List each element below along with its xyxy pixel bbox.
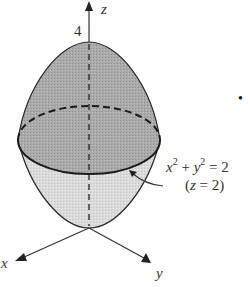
eq-x: x	[166, 159, 173, 175]
z-axis-label: z	[101, 2, 107, 17]
diagram-svg	[0, 0, 250, 287]
x-axis	[22, 228, 89, 258]
intersection-equation: x2 + y2 = 2	[166, 158, 229, 175]
y-axis	[89, 228, 144, 258]
y-axis-arrowhead	[141, 253, 151, 263]
z-axis-arrowhead	[85, 1, 93, 11]
z-tick-label: 4	[74, 24, 82, 39]
eq-y-exp: 2	[200, 156, 205, 167]
intersection-condition: (z = 2)	[185, 178, 224, 193]
stray-dot-marker: •	[238, 92, 243, 106]
paraboloid-diagram: z 4 x y x2 + y2 = 2 (z = 2) •	[0, 0, 250, 287]
cond-rest: = 2)	[196, 177, 224, 193]
x-axis-arrowhead	[15, 253, 27, 261]
eq-rhs: = 2	[205, 159, 228, 175]
x-axis-label: x	[1, 256, 8, 271]
eq-x-exp: 2	[173, 156, 178, 167]
eq-plus: +	[178, 159, 194, 175]
y-axis-label: y	[156, 266, 163, 281]
